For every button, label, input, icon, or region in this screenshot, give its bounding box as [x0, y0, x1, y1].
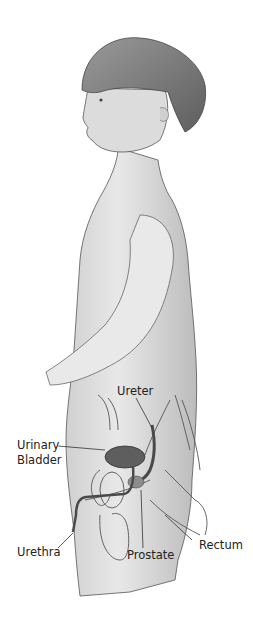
label-urinary-bladder-line2: Bladder: [17, 453, 62, 467]
head: [82, 38, 206, 152]
label-ureter: Ureter: [117, 384, 153, 398]
anatomy-illustration: [0, 0, 253, 628]
eye: [99, 98, 102, 101]
bladder-organ: [105, 446, 145, 468]
label-prostate: Prostate: [127, 548, 174, 562]
label-urinary-bladder-line1: Urinary: [17, 438, 59, 452]
label-rectum: Rectum: [199, 538, 243, 552]
label-urethra: Urethra: [17, 545, 61, 559]
